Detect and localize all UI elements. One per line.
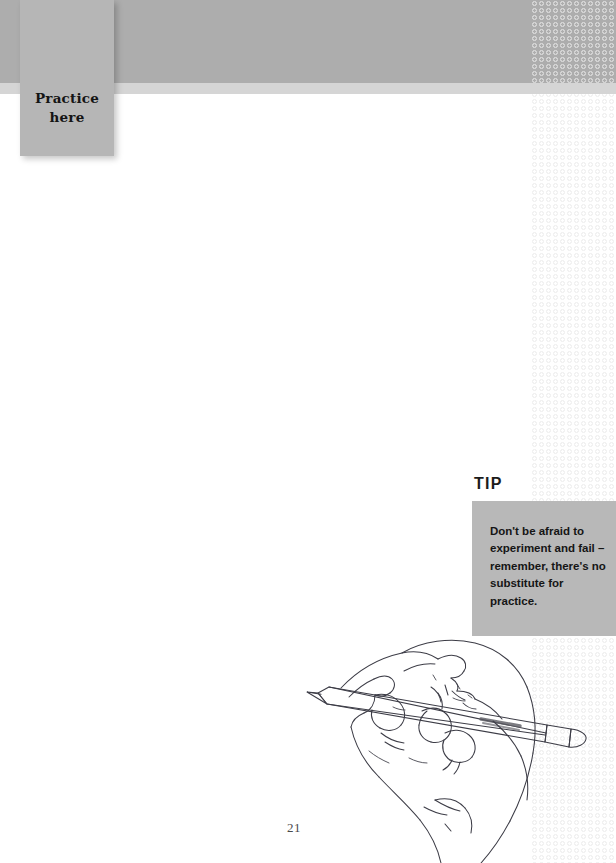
page-number: 21 xyxy=(0,820,616,836)
page-number-value: 21 xyxy=(287,820,301,836)
practice-here-tab: Practice here xyxy=(20,0,114,156)
header-circle-grid-pattern-icon xyxy=(531,0,616,94)
practice-here-tab-label: Practice here xyxy=(35,89,99,128)
tip-box: Don't be afraid to experiment and fail –… xyxy=(472,501,616,636)
tip-callout: TIP Don't be afraid to experiment and fa… xyxy=(472,470,616,636)
practice-page: Practice here TIP Don't be afraid to exp… xyxy=(0,0,616,863)
tip-body-text: Don't be afraid to experiment and fail –… xyxy=(490,523,606,610)
tip-heading: TIP xyxy=(472,470,616,501)
